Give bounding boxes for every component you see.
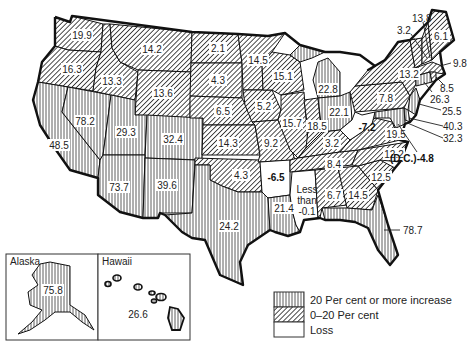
label-indiana: 18.5 <box>307 121 327 132</box>
label-nebraska: 6.5 <box>216 106 230 117</box>
label-kentucky: 3.2 <box>325 138 339 149</box>
label-oregon: 16.3 <box>62 64 82 75</box>
label-new-jersey: 25.5 <box>442 106 462 117</box>
label-new-york: 13.2 <box>399 69 419 80</box>
label-west-virginia: -7.2 <box>358 122 376 133</box>
label-wyoming: 13.6 <box>153 88 173 99</box>
label-tennessee: 8.4 <box>327 159 341 170</box>
label-georgia: 14.5 <box>348 190 368 201</box>
label-arizona: 73.7 <box>109 182 129 193</box>
label-idaho: 13.3 <box>102 76 122 87</box>
label-pennsylvania: 7.8 <box>379 93 393 104</box>
label-mississippi-line3: -0.1 <box>298 206 316 217</box>
label-mississippi-line2: than <box>297 195 316 206</box>
label-alaska: 75.8 <box>43 285 63 296</box>
label-connecticut: 26.3 <box>430 94 450 105</box>
label-louisiana: 21.4 <box>274 203 294 214</box>
label-rhode-island: 8.5 <box>440 83 454 94</box>
legend: 20 Per cent or more increase 0–20 Per ce… <box>274 292 452 337</box>
population-change-map: 19.9 16.3 48.5 78.2 13.3 14.2 13.6 29.3 … <box>0 0 469 346</box>
label-north-dakota: 2.1 <box>211 43 225 54</box>
label-mississippi-line1: Less <box>296 184 317 195</box>
label-oklahoma: 4.3 <box>234 170 248 181</box>
label-michigan: 22.8 <box>318 84 338 95</box>
label-minnesota: 14.5 <box>248 55 268 66</box>
legend-increase20-label: 20 Per cent or more increase <box>310 294 452 306</box>
label-california: 48.5 <box>49 140 69 151</box>
label-vermont: 3.2 <box>397 25 411 36</box>
label-montana: 14.2 <box>142 44 162 55</box>
label-south-dakota: 4.3 <box>211 75 225 86</box>
label-nevada: 78.2 <box>75 116 95 127</box>
label-dc: (D.C.)-4.8 <box>390 153 434 164</box>
label-colorado: 32.4 <box>163 134 183 145</box>
label-washington: 19.9 <box>72 30 92 41</box>
label-florida: 78.7 <box>403 225 423 236</box>
label-new-hampshire: 13.8 <box>412 13 432 24</box>
label-alabama: 6.7 <box>327 190 341 201</box>
label-wisconsin: 15.1 <box>273 71 293 82</box>
label-maine: 6.1 <box>434 31 448 42</box>
label-delaware: 40.3 <box>443 121 463 132</box>
legend-loss-label: Loss <box>310 324 334 336</box>
label-massachusetts: 9.8 <box>453 58 467 69</box>
alaska-title: Alaska <box>10 256 40 267</box>
label-kansas: 14.3 <box>218 138 238 149</box>
hawaii-title: Hawaii <box>102 256 132 267</box>
label-maryland: 32.3 <box>443 133 463 144</box>
label-south-carolina: 12.5 <box>371 172 391 183</box>
label-texas: 24.2 <box>219 221 239 232</box>
legend-increase0to20-label: 0–20 Per cent <box>310 309 379 321</box>
label-illinois: 15.7 <box>282 118 302 129</box>
label-hawaii: 26.6 <box>128 309 148 320</box>
label-arkansas: -6.5 <box>267 172 285 183</box>
label-missouri: 9.2 <box>264 138 278 149</box>
label-utah: 29.3 <box>116 127 136 138</box>
label-virginia: 19.5 <box>386 129 406 140</box>
label-iowa: 5.2 <box>257 101 271 112</box>
alaska-inset: Alaska 75.8 <box>6 254 98 340</box>
label-new-mexico: 39.6 <box>157 180 177 191</box>
hawaii-inset: Hawaii 26.6 <box>98 254 190 340</box>
label-ohio: 22.1 <box>329 107 349 118</box>
